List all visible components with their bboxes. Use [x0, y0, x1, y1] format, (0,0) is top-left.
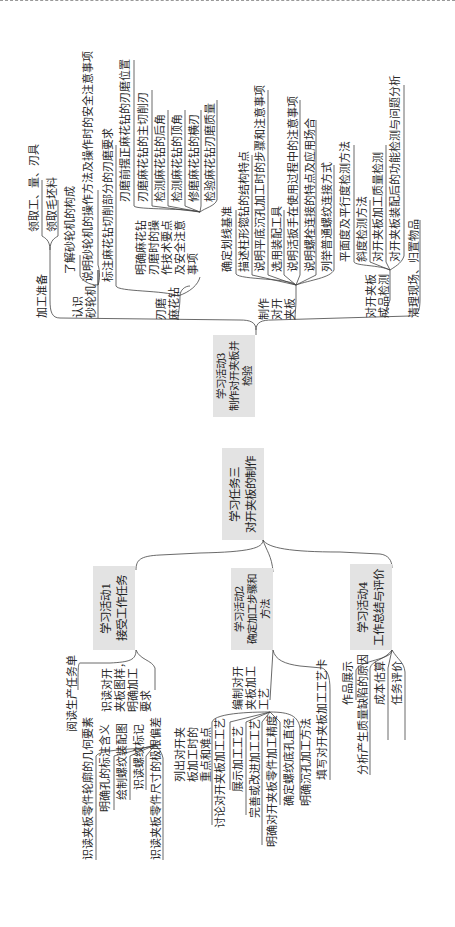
a3-sharpen-item[interactable]: 刃磨前摆正麻花钻的刃磨位置 [119, 59, 132, 202]
a3-prep-item[interactable]: 领取毛坯料 [46, 177, 59, 232]
a3-make-item[interactable]: 说明活扳手在使用过程中的注意事项 [287, 96, 300, 272]
a1-item[interactable]: 明确孔的标注含义 [99, 724, 112, 812]
a1-item[interactable]: 识读夹板零件尺寸的极限偏差 [150, 717, 163, 860]
activity-3-node[interactable]: 学习活动3 制作对开夹板并 检验 [213, 335, 255, 417]
a3-make-item[interactable]: 描述柱形锪钻的结构特点 [238, 151, 251, 272]
activity-2-label: 学习活动2 确定加工步骤和 方法 [231, 568, 273, 650]
a2-item[interactable]: 明确对开夹板零件加工精度 [266, 715, 279, 847]
a3-make-item[interactable]: 说明平底沉孔加工时的步骤和注意事项 [254, 85, 267, 272]
a3-sharpen[interactable]: 刃磨 麻花钻 [155, 287, 181, 320]
a3-grinder[interactable]: 认识 砂轮机 [72, 285, 98, 318]
activity-4-label: 学习活动4 工作总结与评价 [350, 564, 392, 650]
a3-prep-item[interactable]: 领取工、量、刃具 [28, 144, 41, 232]
a3-sharpen-item[interactable]: 检验麻花钻刃磨质量 [204, 103, 217, 202]
a4-item[interactable]: 分析产生质量缺陷的原因 [357, 654, 370, 775]
a3-inspect[interactable]: 对开夹板 成品检测 [365, 274, 391, 318]
a2-fill-card[interactable]: 填写对开夹板加工工艺卡 [316, 659, 329, 780]
activity-1-node[interactable]: 学习活动1 接受工作任务 [93, 566, 135, 650]
activity-1-label: 学习活动1 接受工作任务 [93, 566, 135, 650]
a2-item[interactable]: 展示加工工艺 [232, 726, 245, 792]
a1-item[interactable]: 识读螺纹标记 [133, 724, 146, 790]
a2-item[interactable]: 确定螺纹底孔直径 [283, 718, 296, 806]
a3-inspect-item[interactable]: 斜度检测方法 [356, 196, 369, 262]
a4-item[interactable]: 作品展示 [342, 661, 355, 705]
activity-4-node[interactable]: 学习活动4 工作总结与评价 [350, 564, 392, 650]
a2-item[interactable]: 完善或改进加工工艺 [249, 719, 262, 818]
a3-inspect-item[interactable]: 对开夹板装配后的功能检测与问题分析 [389, 75, 402, 262]
a1-read-task[interactable]: 阅读生产任务单 [66, 655, 79, 732]
a3-sharpen-item[interactable]: 修磨麻花钻的横刃 [188, 114, 201, 202]
a3-make-item[interactable]: 列举普通螺纹连接方式 [321, 162, 334, 272]
a1-read-drawing[interactable]: 识读对开 夹板图样， 明确加工 要求 [101, 657, 153, 712]
a3-grinder-item[interactable]: 了解砂轮机的构成 [64, 186, 77, 274]
a1-item[interactable]: 绘制螺纹装配图 [116, 723, 129, 800]
a2-compile[interactable]: 编制对开 夹板加工 工艺 [232, 666, 271, 710]
a3-cleanup[interactable]: 清理现场、归置物品 [408, 219, 421, 318]
a2-list-points[interactable]: 列出对开夹 板加工时的 重点和难点 [174, 727, 213, 782]
root-node-label: 学习任务三 对开夹板的制作 [222, 448, 264, 540]
a3-make-item[interactable]: 确定划线基准 [221, 206, 234, 272]
a3-make-item[interactable]: 说明螺栓连接的特点及应用场合 [304, 118, 317, 272]
a3-sharpen-tech[interactable]: 明确麻花钻 刃磨时的操 作技术要点 及安全注意 事项 [135, 220, 200, 275]
root-node[interactable]: 学习任务三 对开夹板的制作 [222, 448, 264, 540]
a1-item[interactable]: 识读夹板零件轮廓的几何要素 [82, 717, 95, 860]
a2-item[interactable]: 明确沉孔加工方法 [300, 718, 313, 806]
a3-sharpen-item[interactable]: 刃磨麻花钻的主切削刃 [137, 92, 150, 202]
a3-sharpen-item[interactable]: 检测麻花钻的后角 [154, 114, 167, 202]
a3-sharpen-item[interactable]: 检测麻花钻的顶角 [171, 114, 184, 202]
activity-3-label: 学习活动3 制作对开夹板并 检验 [213, 335, 255, 417]
a3-grinder-item[interactable]: 说明砂轮机的操作方法及操作时的安全注意事项 [82, 51, 95, 282]
a4-item[interactable]: 成本估算 [374, 661, 387, 705]
a3-sharpen-mark[interactable]: 标注麻花钻切削部分的刃磨要求 [102, 128, 115, 282]
a4-item[interactable]: 任务评价 [391, 661, 404, 705]
a3-make[interactable]: 制作 对开 夹板 [258, 298, 297, 320]
a3-make-item[interactable]: 选用装配工具 [271, 206, 284, 272]
a3-prep[interactable]: 加工准备 [36, 274, 49, 318]
a3-inspect-item[interactable]: 对开夹板加工质量检测 [372, 152, 385, 262]
activity-2-node[interactable]: 学习活动2 确定加工步骤和 方法 [231, 568, 273, 650]
a3-inspect-item[interactable]: 平面度及平行度检测方法 [339, 141, 352, 262]
a2-item[interactable]: 讨论对开夹板加工工艺 [214, 718, 227, 828]
